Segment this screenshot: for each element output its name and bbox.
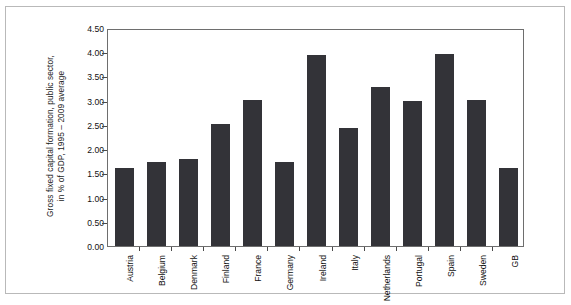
x-axis-tick-label: Finland xyxy=(222,251,231,279)
x-axis-tick-label: Portugal xyxy=(415,251,424,283)
bar xyxy=(179,159,198,246)
bar xyxy=(211,124,230,246)
y-axis-tick-mark xyxy=(102,53,107,54)
x-axis-tick-mark xyxy=(332,247,333,251)
x-axis-tick-mark xyxy=(267,247,268,251)
y-axis-tick-label: 4.50 xyxy=(87,24,104,34)
x-axis-tick-label: Belgium xyxy=(158,251,167,282)
x-axis-tick-label: Austria xyxy=(126,251,135,278)
x-axis-tick-label-text: Denmark xyxy=(190,255,199,290)
y-axis-tick-labels: 0.000.501.001.502.002.503.003.504.004.50 xyxy=(64,25,104,255)
x-axis-tick-label: Germany xyxy=(286,251,295,286)
y-axis-tick-mark xyxy=(102,126,107,127)
x-axis-tick-label: Netherlands xyxy=(383,251,392,297)
x-axis-tick-label-text: GB xyxy=(511,255,520,267)
x-axis-tick-label-text: Spain xyxy=(447,255,456,277)
x-axis-tick-label: Denmark xyxy=(190,251,199,286)
x-axis-tick-labels: AustriaBelgiumDenmarkFinlandFranceGerman… xyxy=(107,247,524,305)
x-axis-tick-mark xyxy=(171,247,172,251)
bars-layer xyxy=(108,30,523,246)
y-axis-tick-mark xyxy=(102,150,107,151)
bar xyxy=(403,101,422,246)
bar xyxy=(115,168,134,246)
bar xyxy=(467,100,486,246)
x-axis-tick-label-text: Italy xyxy=(351,255,360,271)
x-axis-tick-mark xyxy=(235,247,236,251)
x-axis-tick-label-text: France xyxy=(254,255,263,282)
x-axis-tick-label-text: Netherlands xyxy=(383,255,392,301)
figure-frame: Gross fixed capital formation, public se… xyxy=(5,6,565,294)
x-axis-tick-label-text: Finland xyxy=(222,255,231,283)
bar xyxy=(499,168,518,246)
y-axis-tick-mark xyxy=(102,199,107,200)
bar xyxy=(339,128,358,246)
x-axis-tick-mark xyxy=(428,247,429,251)
x-axis-tick-label: GB xyxy=(511,251,520,263)
y-axis-tick-mark xyxy=(102,174,107,175)
bar xyxy=(243,100,262,246)
bar xyxy=(435,54,454,246)
y-axis-tick-mark xyxy=(102,102,107,103)
x-axis-tick-mark xyxy=(299,247,300,251)
x-axis-tick-label: Italy xyxy=(351,251,360,267)
plot-area xyxy=(107,29,524,247)
x-axis-tick-mark xyxy=(364,247,365,251)
y-axis-tick-mark xyxy=(102,77,107,78)
x-axis-tick-mark xyxy=(139,247,140,251)
x-axis-tick-label: Ireland xyxy=(319,251,328,277)
x-axis-tick-mark xyxy=(492,247,493,251)
x-axis-tick-label-text: Ireland xyxy=(319,255,328,281)
y-axis-tick-mark xyxy=(102,223,107,224)
x-axis-tick-label-text: Germany xyxy=(286,255,295,290)
bar xyxy=(275,162,294,246)
y-axis-title-line-1: Gross fixed capital formation, public se… xyxy=(45,55,56,217)
x-axis-tick-label-text: Belgium xyxy=(158,255,167,286)
x-axis-tick-mark xyxy=(396,247,397,251)
x-axis-tick-mark xyxy=(203,247,204,251)
bar xyxy=(147,162,166,246)
y-axis-tick-label: 0.00 xyxy=(87,242,104,252)
bar xyxy=(307,55,326,246)
x-axis-tick-label-text: Austria xyxy=(126,255,135,282)
x-axis-tick-label-text: Sweden xyxy=(479,255,488,286)
bar xyxy=(371,87,390,246)
x-axis-tick-label: Sweden xyxy=(479,251,488,282)
x-axis-tick-label-text: Portugal xyxy=(415,255,424,287)
x-axis-tick-label: France xyxy=(254,251,263,278)
x-axis-tick-label: Spain xyxy=(447,251,456,273)
x-axis-tick-mark xyxy=(460,247,461,251)
